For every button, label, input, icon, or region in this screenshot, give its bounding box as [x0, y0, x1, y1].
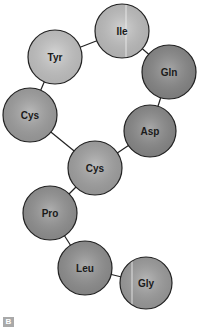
residue-tyr: Tyr: [28, 30, 82, 84]
residue-label: Pro: [42, 208, 59, 219]
residue-gly: Gly: [120, 257, 172, 309]
residue-ile: Ile: [95, 4, 149, 58]
residue-pro: Pro: [23, 186, 77, 240]
residue-label: Gly: [138, 278, 155, 289]
residue-label: Asp: [141, 126, 160, 137]
residue-label: Ile: [116, 26, 128, 37]
residue-asp: Asp: [124, 105, 176, 157]
residue-gln: Gln: [142, 45, 196, 99]
residue-leu: Leu: [58, 241, 112, 295]
residue-label: Leu: [76, 263, 94, 274]
residue-circles: IleTyrGlnCysAspCysProLeuGly: [3, 4, 196, 309]
residue-label: Gln: [161, 67, 178, 78]
residue-cys: Cys: [3, 88, 57, 142]
residue-label: Cys: [21, 110, 40, 121]
peptide-diagram: IleTyrGlnCysAspCysProLeuGly: [0, 0, 200, 330]
residue-label: Tyr: [48, 52, 63, 63]
residue-label: Cys: [86, 163, 105, 174]
residue-cys: Cys: [68, 141, 122, 195]
panel-label: B: [3, 317, 14, 327]
